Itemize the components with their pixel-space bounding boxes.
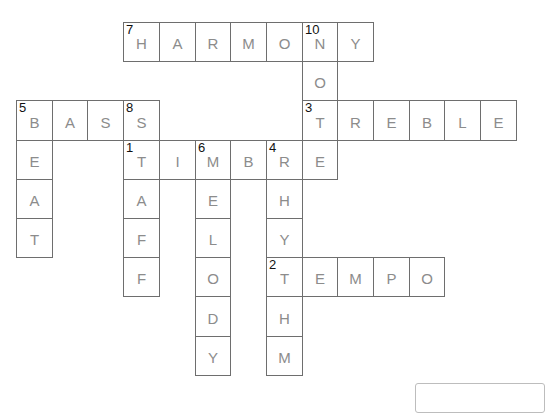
cell-letter: M <box>338 258 373 296</box>
clue-number: 5 <box>19 101 26 114</box>
cell-letter: I <box>160 141 195 179</box>
crossword-cell[interactable]: O <box>195 257 231 297</box>
cell-letter: A <box>160 23 195 61</box>
crossword-cell[interactable]: I <box>159 140 196 180</box>
crossword-cell[interactable]: H7 <box>123 22 160 62</box>
cell-letter: H <box>267 180 302 218</box>
crossword-cell[interactable]: T <box>16 218 53 258</box>
crossword-cell[interactable]: R <box>195 22 231 62</box>
crossword-cell[interactable]: O <box>266 22 303 62</box>
cell-letter: B <box>410 101 444 140</box>
crossword-cell[interactable]: Y <box>337 22 374 62</box>
crossword-cell[interactable]: P <box>373 257 410 297</box>
crossword-cell[interactable]: A <box>159 22 196 62</box>
cell-letter: L <box>196 219 230 257</box>
crossword-cell[interactable]: R4 <box>266 140 303 180</box>
cell-letter: T <box>17 219 52 257</box>
crossword-cell[interactable]: E <box>480 100 517 141</box>
cell-letter: E <box>374 101 409 140</box>
crossword-cell[interactable]: M6 <box>195 140 231 180</box>
crossword-cell[interactable]: E <box>16 140 53 180</box>
cell-letter: Y <box>196 337 230 375</box>
crossword-cell[interactable]: O <box>409 257 445 297</box>
crossword-cell[interactable]: E <box>195 179 231 219</box>
clue-number: 4 <box>269 141 276 154</box>
crossword-cell[interactable]: B <box>230 140 267 180</box>
crossword-cell[interactable]: F <box>123 218 160 258</box>
crossword-cell[interactable]: S <box>87 100 124 141</box>
cell-letter: E <box>481 101 516 140</box>
crossword-cell[interactable]: E <box>373 100 410 141</box>
cell-letter: R <box>196 23 230 61</box>
crossword-cell[interactable]: F <box>123 257 160 297</box>
cell-letter: H <box>267 297 302 336</box>
cell-letter: E <box>17 141 52 179</box>
crossword-cell[interactable]: R <box>337 100 374 141</box>
crossword-cell[interactable]: N10 <box>302 22 338 62</box>
cell-letter: E <box>303 258 337 296</box>
crossword-cell[interactable]: M <box>230 22 267 62</box>
cell-letter: A <box>53 101 87 140</box>
clue-number: 8 <box>126 101 133 114</box>
cell-letter: A <box>17 180 52 218</box>
crossword-cell[interactable]: E <box>302 257 338 297</box>
crossword-cell[interactable]: A <box>123 179 160 219</box>
cell-letter: P <box>374 258 409 296</box>
crossword-cell[interactable]: B5 <box>16 100 53 141</box>
crossword-cell[interactable]: M <box>337 257 374 297</box>
cell-letter: E <box>303 141 337 179</box>
crossword-cell[interactable]: B <box>409 100 445 141</box>
clue-number: 3 <box>305 101 312 114</box>
cell-letter: L <box>445 101 480 140</box>
crossword-cell[interactable]: A <box>16 179 53 219</box>
crossword-cell[interactable]: L <box>195 218 231 258</box>
cell-letter: R <box>338 101 373 140</box>
cell-letter: M <box>231 23 266 61</box>
crossword-cell[interactable]: M <box>266 336 303 376</box>
crossword-cell[interactable]: E <box>302 140 338 180</box>
crossword-cell[interactable]: O <box>302 61 338 101</box>
crossword-cell[interactable]: L <box>444 100 481 141</box>
crossword-cell[interactable]: Y <box>195 336 231 376</box>
crossword-cell[interactable]: T2 <box>266 257 303 297</box>
cell-letter: O <box>303 62 337 100</box>
cell-letter: S <box>88 101 123 140</box>
cell-letter: F <box>124 258 159 296</box>
cell-letter: F <box>124 219 159 257</box>
cell-letter: O <box>410 258 444 296</box>
answer-input-box[interactable] <box>415 383 545 413</box>
cell-letter: A <box>124 180 159 218</box>
cell-letter: Y <box>267 219 302 257</box>
cell-letter: Y <box>338 23 373 61</box>
crossword-cell[interactable]: T1 <box>123 140 160 180</box>
crossword-cell[interactable]: Y <box>266 218 303 258</box>
crossword-cell[interactable]: D <box>195 296 231 337</box>
cell-letter: M <box>267 337 302 375</box>
clue-number: 6 <box>198 141 205 154</box>
crossword-cell[interactable]: S8 <box>123 100 160 141</box>
clue-number: 2 <box>269 258 276 271</box>
cell-letter: O <box>267 23 302 61</box>
crossword-cell[interactable]: T3 <box>302 100 338 141</box>
clue-number: 10 <box>305 23 319 36</box>
cell-letter: D <box>196 297 230 336</box>
crossword-cell[interactable]: H <box>266 179 303 219</box>
cell-letter: E <box>196 180 230 218</box>
clue-number: 7 <box>126 23 133 36</box>
crossword-cell[interactable]: H <box>266 296 303 337</box>
clue-number: 1 <box>126 141 133 154</box>
cell-letter: O <box>196 258 230 296</box>
cell-letter: B <box>231 141 266 179</box>
crossword-cell[interactable]: A <box>52 100 88 141</box>
